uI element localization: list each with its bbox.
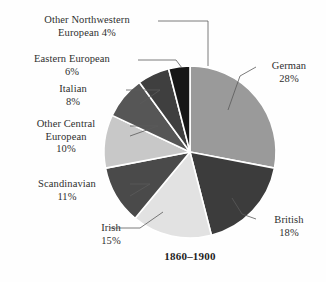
slice-label-other-northwestern-european: Other Northwestern European 4% [18,14,156,39]
slice-label-line: Italian [22,83,124,96]
slice-label-line: 10% [4,143,128,156]
slice-label-line: Scandinavian [6,178,128,191]
slice-label-line: 11% [6,191,128,204]
pie-chart-figure: Other Northwestern European 4% Eastern E… [0,0,326,282]
slice-label-line: Other Northwestern [18,14,156,27]
slice-label-line: 8% [22,96,124,109]
pie-slices-group [104,66,276,238]
slice-label-irish: Irish 15% [78,222,144,247]
leader-line-other-northwestern [158,21,208,66]
slice-label-british: British 18% [258,214,320,239]
slice-label-eastern-european: Eastern European 6% [8,53,136,78]
slice-label-line: 28% [258,73,320,86]
slice-label-line: 18% [258,227,320,240]
slice-label-line: European [4,131,128,144]
slice-label-line: European 4% [18,27,156,40]
slice-label-line: Other Central [4,118,128,131]
slice-label-line: 6% [8,66,136,79]
slice-label-italian: Italian 8% [22,83,124,108]
slice-label-line: Eastern European [8,53,136,66]
slice-label-other-central-european: Other Central European 10% [4,118,128,156]
chart-title: 1860–1900 [143,250,237,262]
slice-label-line: German [258,60,320,73]
slice-label-line: 15% [78,235,144,248]
slice-label-scandinavian: Scandinavian 11% [6,178,128,203]
slice-label-line: Irish [78,222,144,235]
slice-label-line: British [258,214,320,227]
slice-label-german: German 28% [258,60,320,85]
